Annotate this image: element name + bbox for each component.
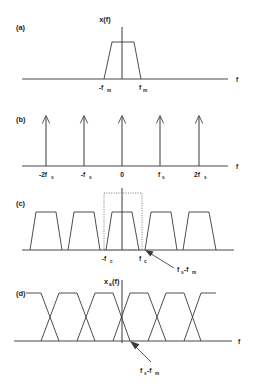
panel-b-tick-minus-2fs: -2f s [39,171,54,180]
panel-b-tick-plus-2fs: 2f s [194,171,207,180]
panel-d-axis-label: f [238,338,241,345]
panel-d-annotation-arrow [130,341,151,362]
panel-d-title: x a (f) [104,277,120,287]
panel-b-tick-minus-fs: -f s [81,171,92,180]
panel-c-annotation-main2: -f [184,266,189,273]
panel-c-tick-plus-fc-sub: c [144,259,147,264]
panel-b-tick-minus-fs-sub: s [89,175,92,180]
panel-b-tick-plus-fs-sub: s [162,175,165,180]
panel-a-tick-minus-fm-sub: m [107,88,111,93]
panel-c-tick-minus-fc-main: -f [102,255,107,262]
panel-c-replica-plus-2 [183,212,216,250]
panel-b-tick-plus-2fs-sub: s [204,175,207,180]
panel-c-label: (c) [16,199,26,208]
panel-c-replica-minus-1 [68,212,100,250]
panel-a-tick-plus-fm-sub: m [143,88,147,93]
panel-c-annotation-label: f s -f m [177,266,196,275]
panel-c-highlight-box [104,193,142,250]
panel-a-label: (a) [16,23,26,32]
panel-a-axis-label: f [236,76,239,83]
panel-d-annotation-main1: f [140,367,143,374]
panel-b-impulse-minus-2fs [42,116,49,167]
panel-d-label: (d) [16,289,26,298]
panel-a-tick-plus-fm-main: f [139,84,142,91]
panel-c-tick-minus-fc-sub: c [110,259,113,264]
panel-b-tick-plus-2fs-main: 2f [194,171,201,178]
panel-d: (d) x a (f) f f s -f m [14,277,241,376]
panel-b-tick-zero-main: 0 [120,171,124,178]
panel-a: (a) x(f) f -f m f m [16,15,239,93]
panel-a-tick-plus-fm: f m [139,84,147,93]
panel-b-impulse-zero [118,116,125,167]
panel-b-tick-plus-fs-main: f [158,171,161,178]
panel-c-annotation-sub2: m [192,270,196,275]
panel-d-annotation-main2: -f [147,367,152,374]
panel-c-annotation-main1: f [177,266,180,273]
panel-c-tick-minus-fc: -f c [102,255,113,264]
panel-b: (b) f -2f s [16,115,239,180]
panel-b-impulse-minus-fs [80,116,87,167]
panel-c-tick-plus-fc: f c [139,255,147,264]
panel-a-title: x(f) [99,15,111,24]
panel-b-tick-minus-2fs-sub: s [51,175,54,180]
panel-d-replica-edge-left [26,293,59,341]
panel-c: (c) -f c f c f s -f m [16,188,234,275]
panel-a-tick-minus-fm: -f m [99,84,111,93]
panel-d-annotation-label: f s -f m [140,367,159,376]
panel-d-annotation-sub2: m [155,371,159,376]
panel-c-tick-plus-fc-main: f [139,255,142,262]
panel-b-tick-plus-fs: f s [158,171,165,180]
panel-b-tick-zero: 0 [120,171,124,178]
panel-d-replica-plus-1 [148,293,201,341]
panel-b-label: (b) [16,115,26,124]
panel-c-replica-plus-1 [145,212,177,250]
panel-b-tick-minus-2fs-main: -2f [39,171,48,178]
panel-d-title-tail: (f) [112,277,120,286]
panel-b-impulse-plus-2fs [195,116,202,167]
panel-c-annotation-arrow [145,250,174,268]
panel-c-replica-minus-2 [30,212,62,250]
figure-canvas: (a) x(f) f -f m f m (b) [0,0,256,384]
panel-b-axis-label: f [236,163,239,170]
panel-b-tick-minus-fs-main: -f [81,171,86,178]
panel-d-replica-minus-1 [113,293,166,341]
panel-a-tick-minus-fm-main: -f [99,84,104,91]
panel-d-replica-edge-right [184,293,216,341]
panel-d-replica-minus-3 [41,293,95,341]
panel-b-impulse-plus-fs [156,116,163,167]
